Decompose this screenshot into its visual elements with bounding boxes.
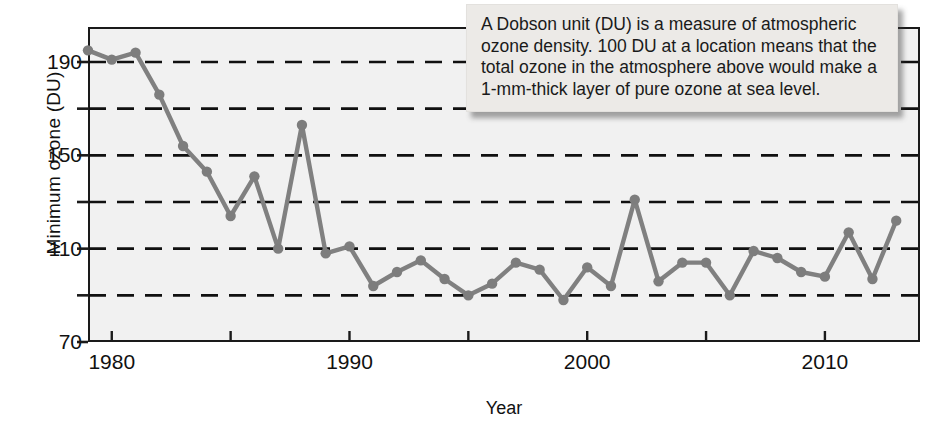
data-point: [867, 274, 877, 284]
data-point: [130, 47, 140, 57]
data-point: [368, 281, 378, 291]
data-point: [606, 281, 616, 291]
data-point: [534, 264, 544, 274]
ozone-chart-figure: 70 110 150 190 1980199020002010 Minimum …: [0, 0, 927, 441]
data-point: [796, 267, 806, 277]
data-point: [463, 290, 473, 300]
data-point: [297, 120, 307, 130]
data-point: [820, 271, 830, 281]
data-point: [558, 295, 568, 305]
data-point: [701, 257, 711, 267]
data-point: [154, 89, 164, 99]
data-point: [582, 262, 592, 272]
annotation-text: A Dobson unit (DU) is a measure of atmos…: [481, 14, 885, 100]
data-point: [487, 278, 497, 288]
data-point: [891, 215, 901, 225]
data-point: [843, 227, 853, 237]
data-point: [677, 257, 687, 267]
data-point: [107, 54, 117, 64]
data-point: [630, 194, 640, 204]
annotation-callout: A Dobson unit (DU) is a measure of atmos…: [466, 4, 898, 112]
data-point: [202, 166, 212, 176]
data-point: [249, 171, 259, 181]
data-point: [321, 248, 331, 258]
data-point: [511, 257, 521, 267]
data-point: [83, 45, 93, 55]
data-point: [392, 267, 402, 277]
data-point: [653, 276, 663, 286]
data-point: [725, 290, 735, 300]
data-point: [225, 211, 235, 221]
data-point: [273, 243, 283, 253]
data-point: [416, 255, 426, 265]
data-point: [748, 246, 758, 256]
data-point: [772, 253, 782, 263]
data-point: [344, 241, 354, 251]
data-point: [178, 141, 188, 151]
data-point: [439, 274, 449, 284]
